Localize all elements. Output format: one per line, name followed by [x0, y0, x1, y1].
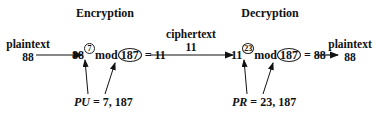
decryption-title: Decryption	[225, 6, 315, 21]
enc-base: 88	[72, 48, 84, 62]
enc-modulus: 187	[118, 48, 142, 62]
ciphertext-label: ciphertext 11	[158, 28, 224, 54]
pr-exp-pointer	[244, 60, 247, 94]
pr-mod-pointer	[263, 63, 273, 94]
dec-exponent: 23	[242, 43, 254, 54]
encryption-title: Encryption	[56, 6, 154, 21]
pu-mod-pointer	[105, 63, 115, 94]
input-label: plaintext 88	[2, 38, 54, 64]
ciphertext-value: 11	[158, 41, 224, 54]
pu-exp-pointer	[85, 60, 88, 94]
enc-exponent: 7	[84, 43, 95, 54]
ciphertext-label-text: ciphertext	[158, 28, 224, 41]
public-key-label: PU = 7, 187	[74, 95, 133, 110]
pu-name: PU	[74, 95, 90, 109]
pr-name: PR	[232, 95, 247, 109]
pu-value: = 7, 187	[90, 95, 133, 109]
input-label-text: plaintext	[2, 38, 54, 51]
output-label-text: plaintext	[324, 38, 376, 51]
input-value: 88	[2, 51, 54, 64]
dec-mod: mod	[254, 48, 277, 62]
pr-value: = 23, 187	[247, 95, 296, 109]
output-label: plaintext 88	[324, 38, 376, 64]
encryption-equation: 887mod187 = 11	[72, 48, 166, 63]
decryption-equation: 1123mod187 = 88	[231, 48, 326, 63]
dec-modulus: 187	[277, 48, 301, 62]
output-value: 88	[324, 51, 376, 64]
dec-result: = 88	[304, 48, 326, 62]
enc-mod: mod	[95, 48, 118, 62]
dec-base: 11	[231, 48, 242, 62]
private-key-label: PR = 23, 187	[232, 95, 296, 110]
